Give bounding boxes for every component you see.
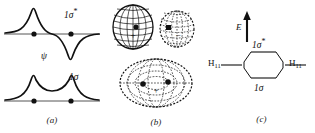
- left-atomic-orbital-label: H11: [208, 58, 221, 68]
- bonding-ellipsoid-sign: +: [154, 86, 159, 95]
- nucleus-dot-right-lobe: [166, 25, 171, 30]
- panel-a-wavefunction-plots: 1σ* ψ 1σ (a): [0, 0, 104, 133]
- panel-c-antibonding-level-label: 1σ*: [252, 37, 265, 50]
- bonding-wavefunction-curve: [5, 76, 99, 101]
- panel-a-drawing: [0, 0, 104, 120]
- panel-c-bonding-level-label: 1σ: [254, 80, 263, 93]
- panel-a-antibonding-orbital-label: 1σ*: [64, 7, 77, 20]
- panel-b-drawing: + −: [104, 0, 208, 118]
- panel-a-caption: (a): [0, 115, 104, 125]
- right-atomic-orbital-label: H11: [289, 58, 302, 68]
- bonding-ellipsoid: +: [120, 59, 192, 107]
- panel-b-caption: (b): [104, 117, 208, 127]
- nucleus-dot-ellipsoid-left: [140, 81, 146, 87]
- nucleus-dot-left-lobe: [133, 24, 138, 29]
- energy-axis-label: E: [236, 22, 242, 32]
- nucleus-dot-upper-left: [31, 31, 36, 36]
- molecular-orbital-figure: 1σ* ψ 1σ (a): [0, 0, 315, 133]
- antibonding-left-lobe: +: [113, 5, 153, 49]
- panel-b-orbital-surfaces: + −: [104, 0, 208, 133]
- panel-a-bonding-orbital-label: 1σ: [69, 69, 78, 82]
- antibonding-left-sign: +: [130, 30, 135, 40]
- nucleus-dot-lower-left: [31, 98, 36, 103]
- panel-c-caption: (c): [208, 114, 315, 124]
- correlation-lines: [244, 52, 283, 78]
- nucleus-dot-upper-right: [68, 31, 73, 36]
- antibonding-right-lobe: −: [160, 11, 194, 47]
- antibonding-right-sign: −: [175, 30, 180, 40]
- nucleus-dot-lower-right: [68, 98, 73, 103]
- wavefunction-symbol-label: ψ: [41, 51, 47, 61]
- panel-c-energy-diagram: E 1σ* 1σ H11 H11 (c): [208, 0, 315, 133]
- nucleus-dot-ellipsoid-right: [165, 79, 171, 85]
- energy-axis-arrow: [243, 11, 251, 42]
